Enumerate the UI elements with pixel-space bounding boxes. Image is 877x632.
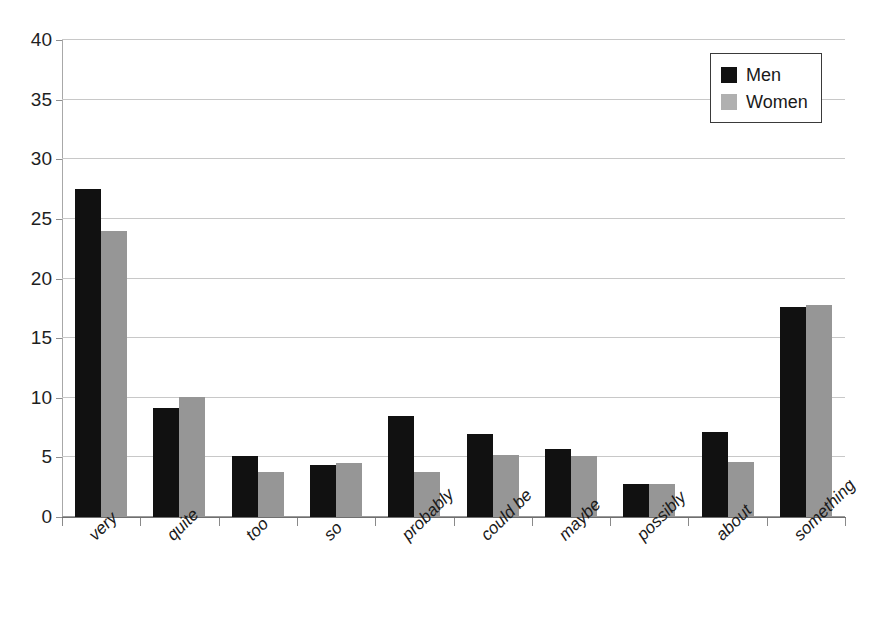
y-tick-label-30: 30 — [8, 148, 52, 170]
bar-group — [545, 40, 597, 517]
y-tick-label-5: 5 — [8, 446, 52, 468]
x-tick-mark — [845, 518, 846, 526]
bar-men — [702, 432, 728, 517]
y-tick-label-35: 35 — [8, 89, 52, 111]
bar-women — [101, 231, 127, 517]
y-tick-label-0: 0 — [8, 506, 52, 528]
bar-women — [806, 305, 832, 517]
bar-women — [258, 472, 284, 517]
bar-men — [780, 307, 806, 517]
bar-men — [467, 434, 493, 517]
bar-men — [545, 449, 571, 517]
x-tick-mark — [688, 518, 689, 526]
x-tick-mark — [62, 518, 63, 526]
bar-men — [623, 484, 649, 517]
bar-men — [232, 456, 258, 517]
x-tick-label: too — [242, 514, 273, 545]
y-tick-label-10: 10 — [8, 387, 52, 409]
bar-group — [388, 40, 440, 517]
bar-women — [336, 463, 362, 517]
bar-group — [623, 40, 675, 517]
bar-chart: 0510152025303540 Men Women veryquitetoos… — [0, 0, 877, 632]
bar-men — [153, 408, 179, 517]
chart-legend: Men Women — [710, 53, 822, 123]
x-tick-mark — [454, 518, 455, 526]
y-tick-label-20: 20 — [8, 268, 52, 290]
bar-men — [75, 189, 101, 517]
legend-item-women: Women — [721, 88, 821, 115]
x-tick-mark — [297, 518, 298, 526]
x-tick-mark — [532, 518, 533, 526]
y-axis: 0510152025303540 — [0, 40, 52, 517]
bar-men — [388, 416, 414, 517]
x-tick-mark — [375, 518, 376, 526]
bar-group — [467, 40, 519, 517]
legend-swatch-men-icon — [721, 67, 737, 83]
bar-group — [232, 40, 284, 517]
y-tick-label-40: 40 — [8, 29, 52, 51]
bar-group — [310, 40, 362, 517]
legend-label-men: Men — [746, 66, 781, 84]
x-tick-mark — [140, 518, 141, 526]
y-tick-label-25: 25 — [8, 208, 52, 230]
x-tick-mark — [610, 518, 611, 526]
y-tick-label-15: 15 — [8, 327, 52, 349]
x-tick-mark — [219, 518, 220, 526]
legend-swatch-women-icon — [721, 94, 737, 110]
legend-item-men: Men — [721, 61, 821, 88]
x-tick-label: so — [320, 518, 347, 545]
bar-group — [153, 40, 205, 517]
bar-men — [310, 465, 336, 517]
bar-women — [179, 397, 205, 517]
bar-group — [75, 40, 127, 517]
legend-label-women: Women — [746, 93, 808, 111]
x-tick-mark — [767, 518, 768, 526]
